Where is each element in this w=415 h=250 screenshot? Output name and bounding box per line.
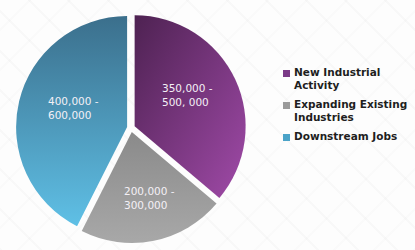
legend-swatch-purple xyxy=(283,70,290,77)
legend-item-expanding: Expanding Existing Industries xyxy=(283,98,415,124)
legend-label: Downstream Jobs xyxy=(294,130,397,143)
legend-item-downstream: Downstream Jobs xyxy=(283,130,415,143)
legend-swatch-gray xyxy=(283,102,290,109)
legend-swatch-blue xyxy=(283,134,290,141)
legend-label: Expanding Existing Industries xyxy=(294,98,407,124)
legend-label: New Industrial Activity xyxy=(294,66,380,92)
pie-chart: 350,000 - 500, 000 200,000 - 300,000 400… xyxy=(0,0,270,250)
legend-item-new-industrial: New Industrial Activity xyxy=(283,66,415,92)
chart-legend: New Industrial Activity Expanding Existi… xyxy=(283,66,415,149)
